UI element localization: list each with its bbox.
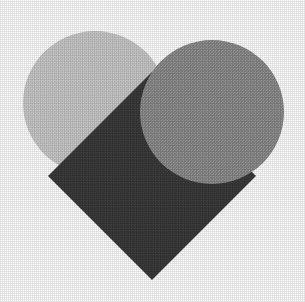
figure-canvas — [0, 0, 305, 302]
right-circle — [140, 40, 284, 184]
heart-figure — [0, 0, 305, 302]
